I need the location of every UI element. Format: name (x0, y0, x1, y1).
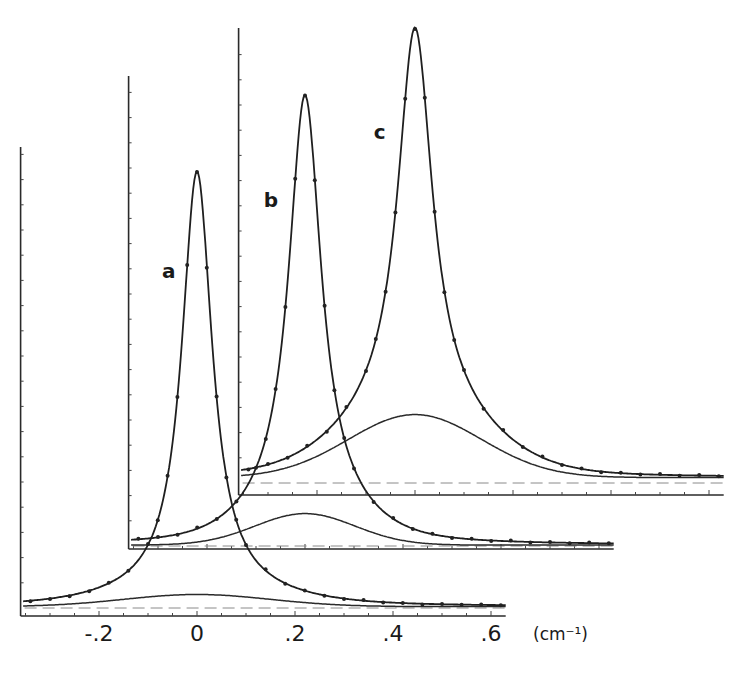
data-point (146, 542, 150, 546)
data-point (166, 474, 170, 478)
x-tick-label: .4 (383, 621, 404, 646)
data-point (176, 533, 180, 537)
data-point (362, 598, 366, 602)
data-point (638, 472, 642, 476)
data-point (423, 96, 427, 100)
x-tick-label: .2 (285, 621, 306, 646)
data-point (205, 266, 209, 270)
data-point (393, 211, 397, 215)
data-point (28, 599, 32, 603)
data-point (195, 526, 199, 530)
frame-area (239, 28, 724, 495)
data-point (342, 597, 346, 601)
data-point (254, 466, 258, 470)
data-point (548, 540, 552, 544)
data-point (264, 567, 268, 571)
data-point (352, 467, 356, 471)
data-point (619, 471, 623, 475)
data-point (136, 537, 140, 541)
data-point (420, 602, 424, 606)
data-point (266, 462, 270, 466)
data-point (264, 437, 268, 441)
data-point (293, 177, 297, 181)
data-point (413, 27, 417, 31)
data-point (401, 601, 405, 605)
data-point (411, 527, 415, 531)
data-point (678, 474, 682, 478)
data-point (452, 338, 456, 342)
data-point (344, 405, 348, 409)
data-point (156, 535, 160, 539)
frame-c (239, 27, 724, 495)
data-point (372, 500, 376, 504)
fit-curve (131, 95, 614, 543)
data-point (244, 543, 248, 547)
data-point (286, 456, 290, 460)
broad-component-curve (241, 415, 724, 478)
data-point (342, 436, 346, 440)
broad-component-curve (131, 514, 614, 546)
data-point (479, 602, 483, 606)
series-labels: a b c (162, 120, 385, 283)
data-point (489, 539, 493, 543)
data-point (374, 337, 378, 341)
x-tick-label: 0 (190, 621, 204, 646)
data-point (364, 369, 368, 373)
data-point (450, 536, 454, 540)
data-point (283, 582, 287, 586)
data-point (68, 594, 72, 598)
data-point (234, 499, 238, 503)
data-point (107, 581, 111, 585)
x-tick-labels: -.2 0 .2 .4 .6 (85, 621, 502, 646)
data-point (313, 178, 317, 182)
series-label-a: a (162, 259, 176, 283)
data-point (303, 94, 307, 98)
data-point (325, 430, 329, 434)
data-point (126, 569, 130, 573)
data-point (521, 445, 525, 449)
spectra-chart: -.2 0 .2 .4 .6 (cm⁻¹) a b c (0, 0, 746, 675)
data-point (246, 468, 250, 472)
data-point (185, 263, 189, 267)
data-point (587, 540, 591, 544)
series-label-c: c (374, 120, 386, 144)
data-point (440, 602, 444, 606)
data-point (283, 305, 287, 309)
data-point (717, 474, 721, 478)
data-point (303, 588, 307, 592)
data-point (482, 407, 486, 411)
data-point (460, 603, 464, 607)
data-point (697, 473, 701, 477)
frame-b (129, 76, 614, 549)
fit-curve (23, 172, 506, 606)
data-point (540, 454, 544, 458)
data-point (215, 395, 219, 399)
data-point (224, 476, 228, 480)
data-point (215, 517, 219, 521)
data-point (580, 467, 584, 471)
x-tick-label: .6 (481, 621, 502, 646)
x-unit-label: (cm⁻¹) (533, 624, 588, 644)
data-point (462, 368, 466, 372)
data-point (599, 470, 603, 474)
data-point (322, 594, 326, 598)
data-point (305, 444, 309, 448)
data-point (470, 537, 474, 541)
data-point (234, 518, 238, 522)
series-label-b: b (264, 188, 278, 212)
data-point (509, 539, 513, 543)
data-point (274, 387, 278, 391)
data-point (391, 516, 395, 520)
data-point (433, 210, 437, 214)
data-point (499, 603, 503, 607)
data-point (195, 170, 199, 174)
data-point (332, 388, 336, 392)
data-point (323, 304, 327, 308)
data-point (501, 428, 505, 432)
frame-area (129, 76, 614, 549)
data-point (560, 463, 564, 467)
spectra-frames (21, 27, 724, 616)
data-point (384, 290, 388, 294)
data-point (528, 540, 532, 544)
data-point (658, 472, 662, 476)
